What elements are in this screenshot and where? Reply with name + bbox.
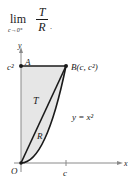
x-tick-label: c: [63, 168, 67, 178]
y-tick-label: c²: [7, 62, 14, 72]
point-a-label: A: [24, 57, 31, 67]
origin-label: O: [11, 166, 18, 176]
point-b-label: B(c, c²): [71, 62, 98, 72]
x-axis-label: x: [123, 159, 128, 168]
curve-label: y = x²: [71, 112, 94, 122]
diagram: y c² A B(c, c²) T R y = x² O c x: [0, 0, 130, 187]
y-axis-label: y: [17, 41, 22, 50]
point-b: [64, 64, 68, 68]
region-r-label: R: [36, 131, 43, 141]
point-a: [19, 64, 23, 68]
x-axis-arrow-icon: [117, 161, 123, 165]
point-o: [19, 161, 23, 165]
